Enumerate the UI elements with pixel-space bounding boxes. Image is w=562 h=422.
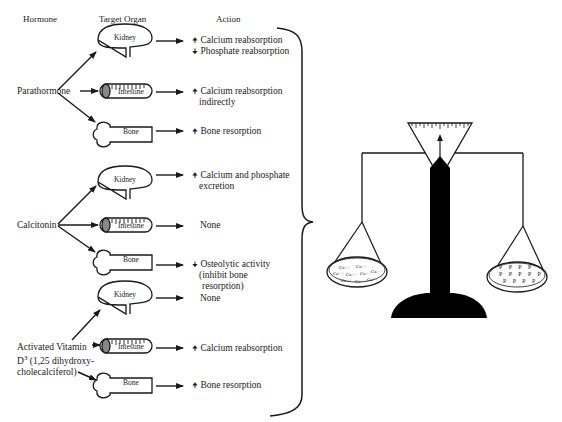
header-target-organ: Target Organ	[99, 14, 146, 25]
organ-label-intestine: Intestine	[112, 221, 150, 230]
action-text: 🠋 Phosphate reabsorption	[192, 46, 289, 58]
calcium-ion-label: Ca++	[355, 276, 366, 287]
hormone-parathormone: Parathormone	[17, 86, 70, 97]
action-text: None	[200, 293, 221, 304]
organ-label-bone: Bone	[112, 127, 150, 136]
action-text: excretion	[199, 181, 234, 192]
up-arrow-icon: 🠉	[192, 37, 198, 45]
up-arrow-icon: 🠉	[192, 88, 198, 96]
hormone-arrows	[58, 52, 100, 380]
organ-label-kidney: Kidney	[105, 33, 145, 42]
action-text: 🠉 Calcium reabsorption	[192, 343, 282, 355]
up-arrow-icon: 🠉	[192, 382, 198, 390]
up-arrow-icon: 🠉	[192, 345, 198, 353]
organ-label-kidney: Kidney	[105, 290, 145, 299]
action-text: (inhibit bone	[199, 270, 248, 281]
phosphate-ions: P P P P P P P P P P P P P	[499, 264, 543, 285]
balance-scale	[327, 123, 547, 318]
scale-pillar	[430, 156, 450, 300]
scale-base	[391, 293, 487, 318]
hormone-vitamin-d3: Activated Vitamin D3 (1,25 dihydroxy- ch…	[17, 342, 94, 378]
header-action: Action	[216, 14, 241, 25]
action-text: 🠉 Bone resorption	[192, 380, 261, 392]
action-text: 🠉 Bone resorption	[192, 126, 261, 138]
action-arrows	[156, 41, 183, 386]
organ-label-kidney: Kidney	[105, 175, 145, 184]
header-hormone: Hormone	[23, 14, 57, 25]
organ-label-bone: Bone	[112, 378, 150, 387]
calcium-ion-label: Ca++	[367, 274, 378, 285]
calcium-ion-label: Ca++	[341, 275, 352, 286]
organ-label-intestine: Intestine	[112, 342, 150, 351]
organ-label-bone: Bone	[112, 255, 150, 264]
up-arrow-icon: 🠉	[192, 128, 198, 136]
action-text: resorption)	[202, 281, 244, 292]
down-arrow-icon: 🠋	[192, 48, 198, 56]
up-arrow-icon: 🠉	[192, 172, 198, 180]
down-arrow-icon: 🠋	[192, 261, 198, 269]
organ-label-intestine: Intestine	[112, 87, 150, 96]
hormone-calcitonin: Calcitonin	[17, 220, 57, 231]
action-text: indirectly	[199, 97, 235, 108]
action-text: None	[200, 220, 221, 231]
